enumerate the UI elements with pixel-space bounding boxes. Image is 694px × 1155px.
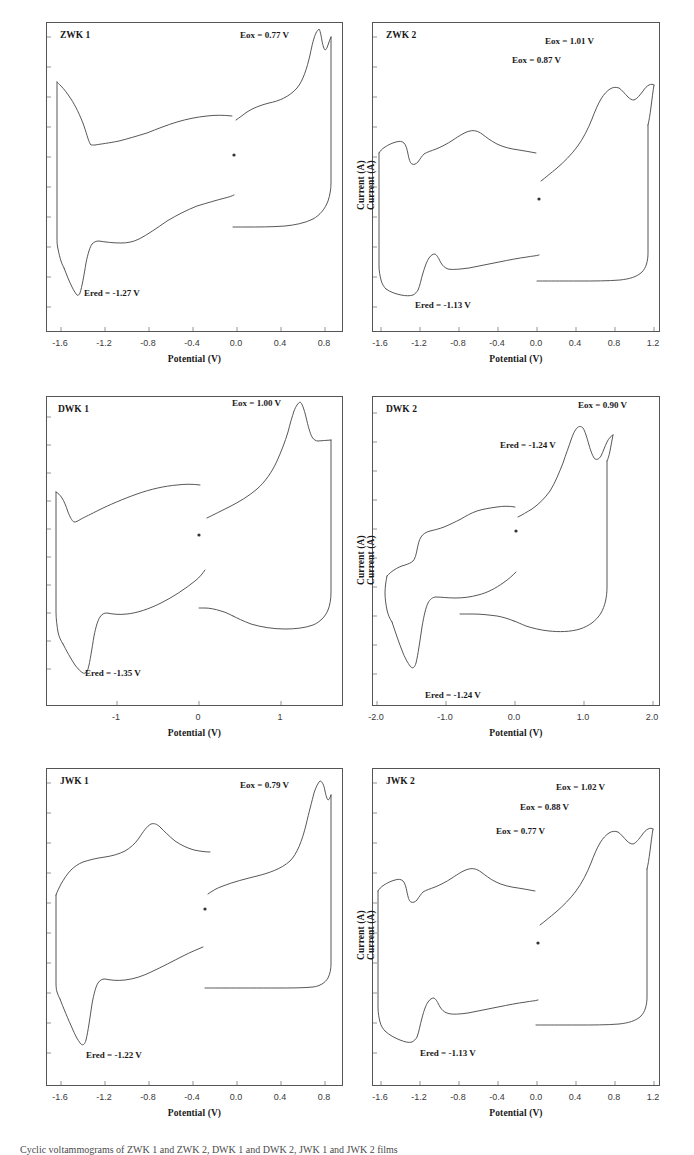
- xtick-label: -0.4: [489, 338, 505, 348]
- annotation-ered-zwk-1-0: Ered = -1.27 V: [84, 288, 140, 298]
- xtick-label: -2.0: [368, 712, 384, 722]
- xtick-label: 0.0: [508, 712, 521, 722]
- y-axis-title-dwk-1: Current (A): [356, 535, 366, 585]
- y-axis-title-zwk-2: Current (A): [366, 160, 376, 210]
- xtick-label: -0.4: [184, 1092, 200, 1102]
- x-axis-title-jwk-1: Potential (V): [46, 1108, 343, 1118]
- y-axis-title-jwk-1: Current (A): [356, 910, 366, 960]
- cv-curve-zwk-1: [47, 23, 342, 331]
- xtick-label: 0.8: [318, 1092, 331, 1102]
- y-axis-title-dwk-2: Current (A): [366, 535, 376, 585]
- x-axis-title-zwk-1: Potential (V): [46, 354, 343, 364]
- xtick-label: -1.6: [52, 338, 68, 348]
- x-axis-title-dwk-2: Potential (V): [372, 728, 660, 738]
- cv-curve-dwk-1: [47, 397, 342, 705]
- xtick-label: 0.0: [530, 1092, 543, 1102]
- xtick-label: 0.8: [608, 338, 621, 348]
- xtick-label: -1.6: [52, 1092, 68, 1102]
- xtick-label: 0.8: [318, 338, 331, 348]
- plot-frame-dwk-1: [46, 396, 343, 706]
- xtick-label: 1.2: [647, 338, 660, 348]
- plot-frame-jwk-2: [372, 768, 660, 1086]
- figure-caption: Cyclic voltammograms of ZWK 1 and ZWK 2,…: [20, 1144, 680, 1155]
- xtick-label: -0.4: [184, 338, 200, 348]
- xtick-label: -0.8: [450, 1092, 466, 1102]
- plot-frame-jwk-1: [46, 768, 343, 1086]
- xtick-label: 0.4: [274, 1092, 287, 1102]
- annotation-ered-dwk-1-0: Ered = -1.35 V: [85, 668, 141, 678]
- annotation-eox-dwk-1-0: Eox = 1.00 V: [232, 398, 281, 408]
- panel-title-dwk-1: DWK 1: [58, 404, 89, 414]
- plot-frame-zwk-1: [46, 22, 343, 332]
- xtick-label: 0.0: [230, 338, 243, 348]
- annotation-eox-zwk-2-1: Eox = 0.87 V: [512, 55, 561, 65]
- xtick-label: -1.6: [372, 1092, 388, 1102]
- annotation-eox-jwk-2-0: Eox = 1.02 V: [556, 782, 605, 792]
- xtick-label: 0: [195, 712, 200, 722]
- annotation-eox-zwk-1-0: Eox = 0.77 V: [240, 30, 289, 40]
- panel-title-zwk-2: ZWK 2: [386, 30, 416, 40]
- xtick-label: 2.0: [646, 712, 659, 722]
- annotation-eox-jwk-2-2: Eox = 0.77 V: [496, 826, 545, 836]
- xtick-label: -1.6: [372, 338, 388, 348]
- annotation-eox-dwk-2-0: Eox = 0.90 V: [578, 400, 627, 410]
- cv-curve-zwk-2: [373, 23, 659, 331]
- x-axis-title-dwk-1: Potential (V): [46, 728, 343, 738]
- annotation-ered-dwk-2-0: Ered = -1.24 V: [425, 690, 481, 700]
- xtick-label: -1.0: [437, 712, 453, 722]
- panel-title-jwk-1: JWK 1: [60, 776, 89, 786]
- plot-frame-zwk-2: [372, 22, 660, 332]
- annotation-ered-zwk-2-0: Ered = -1.13 V: [415, 300, 471, 310]
- annotation-eox-dwk-2-1: Ered = -1.24 V: [500, 440, 556, 450]
- xtick-label: -0.8: [450, 338, 466, 348]
- xtick-label: 1.2: [647, 1092, 660, 1102]
- cv-curve-jwk-2: [373, 769, 659, 1085]
- xtick-label: 0.0: [530, 338, 543, 348]
- xtick-label: 0.4: [569, 338, 582, 348]
- y-axis-title-jwk-2: Current (A): [366, 910, 376, 960]
- xtick-label: 0.4: [274, 338, 287, 348]
- cv-curve-jwk-1: [47, 769, 342, 1085]
- xtick-label: 0.0: [230, 1092, 243, 1102]
- annotation-eox-jwk-1-0: Eox = 0.79 V: [240, 780, 289, 790]
- xtick-label: -1.2: [96, 338, 112, 348]
- panel-title-zwk-1: ZWK 1: [60, 30, 90, 40]
- xtick-label: -1.2: [411, 1092, 427, 1102]
- xtick-label: 0.8: [608, 1092, 621, 1102]
- x-axis-title-jwk-2: Potential (V): [372, 1108, 660, 1118]
- xtick-label: 0.4: [569, 1092, 582, 1102]
- panel-title-dwk-2: DWK 2: [386, 404, 417, 414]
- annotation-ered-jwk-1-0: Ered = -1.22 V: [86, 1050, 142, 1060]
- xtick-label: -0.8: [140, 338, 156, 348]
- xtick-label: -1.2: [96, 1092, 112, 1102]
- panel-title-jwk-2: JWK 2: [386, 776, 415, 786]
- annotation-eox-zwk-2-0: Eox = 1.01 V: [545, 36, 594, 46]
- xtick-label: -1.2: [411, 338, 427, 348]
- xtick-label: -1: [112, 712, 120, 722]
- y-axis-title-zwk-1: Current (A): [356, 160, 366, 210]
- xtick-label: -0.8: [140, 1092, 156, 1102]
- xtick-label: 1: [277, 712, 282, 722]
- xtick-label: -0.4: [489, 1092, 505, 1102]
- x-axis-title-zwk-2: Potential (V): [372, 354, 660, 364]
- annotation-eox-jwk-2-1: Eox = 0.88 V: [520, 802, 569, 812]
- xtick-label: 1.0: [577, 712, 590, 722]
- annotation-ered-jwk-2-0: Ered = -1.13 V: [420, 1048, 476, 1058]
